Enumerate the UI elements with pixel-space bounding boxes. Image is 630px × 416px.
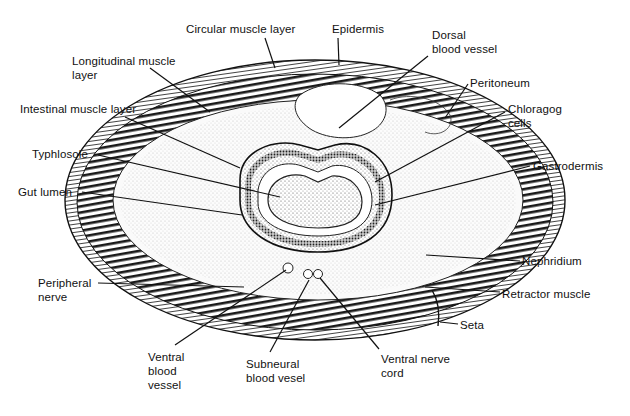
label-longitudinal-muscle-layer: Longitudinal muscle layer	[72, 54, 176, 82]
leader-line-seta	[440, 322, 458, 324]
label-typhlosole: Typhlosole	[32, 147, 88, 161]
label-seta: Seta	[460, 318, 484, 332]
label-chloragog-cells: Chloragog cells	[508, 102, 562, 130]
label-peritoneum: Peritoneum	[470, 76, 530, 90]
label-dorsal-blood-vessel: Dorsal blood vessel	[432, 28, 497, 56]
label-nephridium: Nephridium	[522, 254, 582, 268]
label-circular-muscle-layer: Circular muscle layer	[186, 22, 295, 36]
label-retractor-muscle: Retractor muscle	[502, 287, 591, 301]
label-ventral-blood-vessel: Ventral blood vessel	[148, 350, 185, 392]
label-intestinal-muscle-layer: Intestinal muscle layer	[20, 102, 136, 116]
typhlosole-shape	[268, 175, 362, 228]
label-epidermis: Epidermis	[332, 22, 384, 36]
label-ventral-nerve-cord: Ventral nerve cord	[381, 352, 450, 380]
label-peripheral-nerve: Peripheral nerve	[38, 276, 91, 304]
label-gastrodermis: Gastrodermis	[533, 159, 603, 173]
label-gut-lumen: Gut lumen	[18, 185, 72, 199]
label-subneural-blood-vesel: Subneural blood vesel	[246, 357, 305, 385]
earthworm-cross-section-diagram: Circular muscle layer Epidermis Dorsal b…	[0, 0, 630, 416]
